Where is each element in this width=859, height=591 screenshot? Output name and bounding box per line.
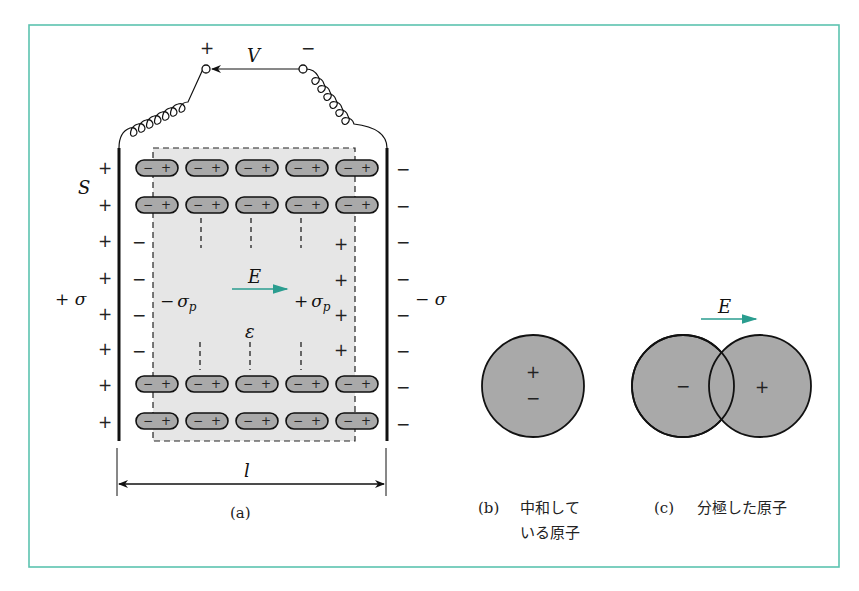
dipole-negative-end: − xyxy=(243,377,253,391)
dipole: −+ xyxy=(236,197,278,213)
dipole: −+ xyxy=(236,376,278,392)
dipole: −+ xyxy=(136,197,178,213)
charge-sign: − xyxy=(396,159,410,179)
permittivity-label: ε xyxy=(245,321,255,342)
atom-minus-sign: − xyxy=(676,376,690,396)
panel-a-caption: (a) xyxy=(230,504,251,522)
dipole-negative-end: − xyxy=(143,414,153,428)
dipole-negative-end: − xyxy=(343,198,353,212)
dipole-positive-end: + xyxy=(161,161,171,175)
dipole-positive-end: + xyxy=(361,198,371,212)
dipole: −+ xyxy=(286,197,328,213)
charge-sign: − xyxy=(396,196,410,216)
dipole-positive-end: + xyxy=(161,377,171,391)
charge-sign: − xyxy=(396,414,410,434)
field-label: E xyxy=(247,266,261,287)
negative-terminal xyxy=(299,65,307,73)
dielectric-polarization-figure: + − V S + σ − σ + + + + + + + + − − − − … xyxy=(0,0,859,591)
dipole-negative-end: − xyxy=(143,198,153,212)
dipole-positive-end: + xyxy=(311,377,321,391)
dipole-negative-end: − xyxy=(243,161,253,175)
dipole: −+ xyxy=(236,160,278,176)
charge-sign: + xyxy=(98,339,112,359)
dipole: −+ xyxy=(186,413,228,429)
dipole-negative-end: − xyxy=(293,161,303,175)
dipole-negative-end: − xyxy=(193,161,203,175)
charge-sign: − xyxy=(396,305,410,325)
dipole-positive-end: + xyxy=(311,414,321,428)
positive-terminal xyxy=(202,65,210,73)
atom-minus-sign: − xyxy=(526,388,540,408)
dipole-positive-end: + xyxy=(161,414,171,428)
charge-sign: + xyxy=(98,268,112,288)
dipole: −+ xyxy=(336,197,378,213)
left-coil-wire xyxy=(119,69,203,148)
charge-sign: − xyxy=(396,341,410,361)
dipole: −+ xyxy=(286,413,328,429)
charge-sign: + xyxy=(98,412,112,432)
voltage-label: V xyxy=(247,45,262,66)
dipole-negative-end: − xyxy=(343,377,353,391)
charge-sign: + xyxy=(98,158,112,178)
dipole: −+ xyxy=(136,376,178,392)
dipole: −+ xyxy=(186,197,228,213)
panel-c-polarized-atom: − + E (c) 分極した原子 xyxy=(632,296,811,517)
atom-plus-sign: + xyxy=(526,362,540,382)
dipole: −+ xyxy=(136,160,178,176)
plate-area-label: S xyxy=(78,177,90,198)
dipole: −+ xyxy=(336,160,378,176)
dipole-negative-end: − xyxy=(243,414,253,428)
dipole-negative-end: − xyxy=(343,414,353,428)
bound-charge-sign: − xyxy=(132,341,146,361)
panel-b-caption-label: (b) xyxy=(478,499,499,517)
right-coil-wire xyxy=(306,69,387,148)
terminal-plus-label: + xyxy=(200,38,214,58)
bound-charge-sign: + xyxy=(334,234,348,254)
charge-sign: + xyxy=(98,195,112,215)
left-surface-charge-label: + σ xyxy=(55,289,87,309)
dipole-positive-end: + xyxy=(261,414,271,428)
atom-plus-sign: + xyxy=(755,377,769,397)
right-surface-charge-label: − σ xyxy=(415,289,447,309)
dipole: −+ xyxy=(186,160,228,176)
panel-b-caption-line1: 中和して xyxy=(520,499,580,517)
dipole: −+ xyxy=(336,376,378,392)
dipole-negative-end: − xyxy=(343,161,353,175)
dipole-positive-end: + xyxy=(211,198,221,212)
charge-sign: − xyxy=(396,269,410,289)
left-plate-charges: + + + + + + + + xyxy=(98,158,112,432)
dipole: −+ xyxy=(136,413,178,429)
bound-charges-left: − − − − xyxy=(132,232,146,361)
charge-sign: + xyxy=(98,304,112,324)
bound-charge-sign: + xyxy=(334,305,348,325)
dipole-positive-end: + xyxy=(261,198,271,212)
dipole: −+ xyxy=(236,413,278,429)
bound-charge-sign: − xyxy=(132,305,146,325)
dipole: −+ xyxy=(186,376,228,392)
dipole-positive-end: + xyxy=(211,414,221,428)
bound-charge-sign: − xyxy=(132,232,146,252)
dipole-negative-end: − xyxy=(293,198,303,212)
right-plate-charges: − − − − − − − − xyxy=(396,159,410,434)
terminal-minus-label: − xyxy=(301,38,315,58)
dipole-positive-end: + xyxy=(261,161,271,175)
dipole-positive-end: + xyxy=(311,161,321,175)
dipole-negative-end: − xyxy=(293,377,303,391)
dipole-positive-end: + xyxy=(161,198,171,212)
panel-c-caption-label: (c) xyxy=(654,499,674,517)
dipole: −+ xyxy=(336,413,378,429)
dipole-positive-end: + xyxy=(361,414,371,428)
dipole-positive-end: + xyxy=(211,161,221,175)
dipole: −+ xyxy=(286,160,328,176)
panel-a-capacitor: + − V S + σ − σ + + + + + + + + − − − − … xyxy=(55,38,447,522)
dipole-negative-end: − xyxy=(143,377,153,391)
dipole-negative-end: − xyxy=(193,198,203,212)
dipole-negative-end: − xyxy=(143,161,153,175)
dipole-positive-end: + xyxy=(361,161,371,175)
panel-c-caption-text: 分極した原子 xyxy=(697,499,787,517)
panel-b-caption-line2: いる原子 xyxy=(520,524,580,542)
bound-charge-sign: − xyxy=(132,269,146,289)
field-label: E xyxy=(717,296,731,317)
bound-charge-sign: + xyxy=(334,340,348,360)
dipole-positive-end: + xyxy=(361,377,371,391)
